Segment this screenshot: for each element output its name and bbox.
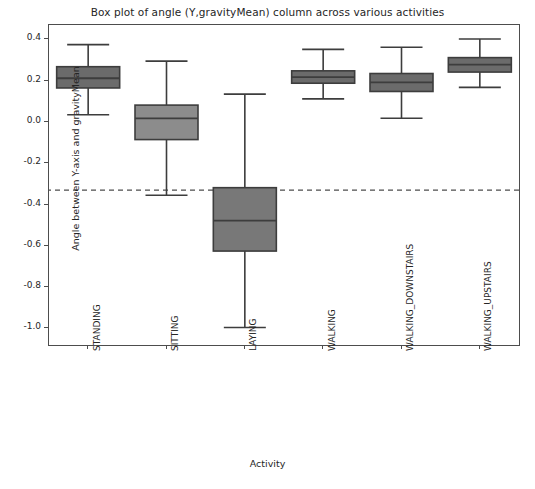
x-tick-mark-standing (87, 345, 88, 349)
x-tick-mark-walking_downstairs (401, 345, 402, 349)
box-plot-walking (292, 49, 355, 99)
y-tick-label-6: -0.8 (0, 280, 41, 290)
y-tick-label-0: 0.4 (0, 32, 41, 42)
box-plot-sitting (135, 61, 198, 195)
x-tick-label-laying: LAYING (248, 318, 258, 351)
x-axis-label: Activity (0, 458, 535, 469)
y-tick-mark-2 (44, 121, 48, 122)
y-tick-label-7: -1.0 (0, 321, 41, 331)
y-tick-mark-0 (44, 38, 48, 39)
x-tick-mark-laying (244, 345, 245, 349)
box-plot-walking_downstairs (370, 47, 433, 118)
y-tick-mark-3 (44, 162, 48, 163)
box-plot-standing (57, 45, 120, 115)
y-tick-mark-4 (44, 204, 48, 205)
y-tick-label-4: -0.4 (0, 198, 41, 208)
box-plot-figure: Box plot of angle (Y,gravityMean) column… (0, 0, 535, 489)
box-plot-laying (213, 94, 276, 327)
plot-svg (49, 25, 519, 345)
y-tick-label-1: 0.2 (0, 74, 41, 84)
x-tick-label-standing: STANDING (92, 304, 102, 351)
y-tick-mark-1 (44, 80, 48, 81)
y-axis-label: Angle between Y-axis and gravityMean (70, 29, 81, 289)
x-tick-mark-walking_upstairs (479, 345, 480, 349)
x-tick-label-sitting: SITTING (170, 315, 180, 351)
y-tick-label-3: -0.2 (0, 156, 41, 166)
chart-title: Box plot of angle (Y,gravityMean) column… (0, 6, 535, 18)
plot-area: Angle between Y-axis and gravityMean (48, 24, 520, 346)
y-tick-mark-5 (44, 245, 48, 246)
x-tick-label-walking_downstairs: WALKING_DOWNSTAIRS (405, 244, 415, 351)
x-tick-mark-sitting (166, 345, 167, 349)
x-tick-label-walking: WALKING (327, 309, 337, 351)
x-tick-label-walking_upstairs: WALKING_UPSTAIRS (483, 261, 493, 351)
x-tick-mark-walking (322, 345, 323, 349)
box-plot-walking_upstairs (448, 39, 511, 87)
y-tick-label-2: 0.0 (0, 115, 41, 125)
y-tick-label-5: -0.6 (0, 239, 41, 249)
y-tick-mark-7 (44, 327, 48, 328)
y-tick-mark-6 (44, 286, 48, 287)
